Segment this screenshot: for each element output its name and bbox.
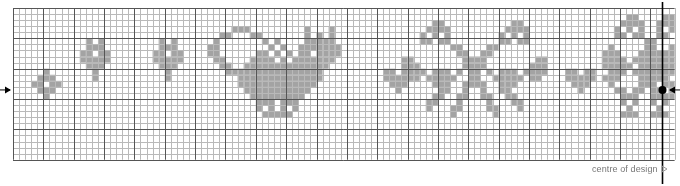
triangle-right-icon bbox=[661, 165, 668, 175]
centre-of-design-annotation: centre of design bbox=[592, 164, 668, 174]
centre-of-design-label: centre of design bbox=[592, 164, 658, 174]
pattern-grid-canvas bbox=[0, 0, 680, 186]
cross-stitch-chart: centre of design bbox=[0, 0, 680, 186]
